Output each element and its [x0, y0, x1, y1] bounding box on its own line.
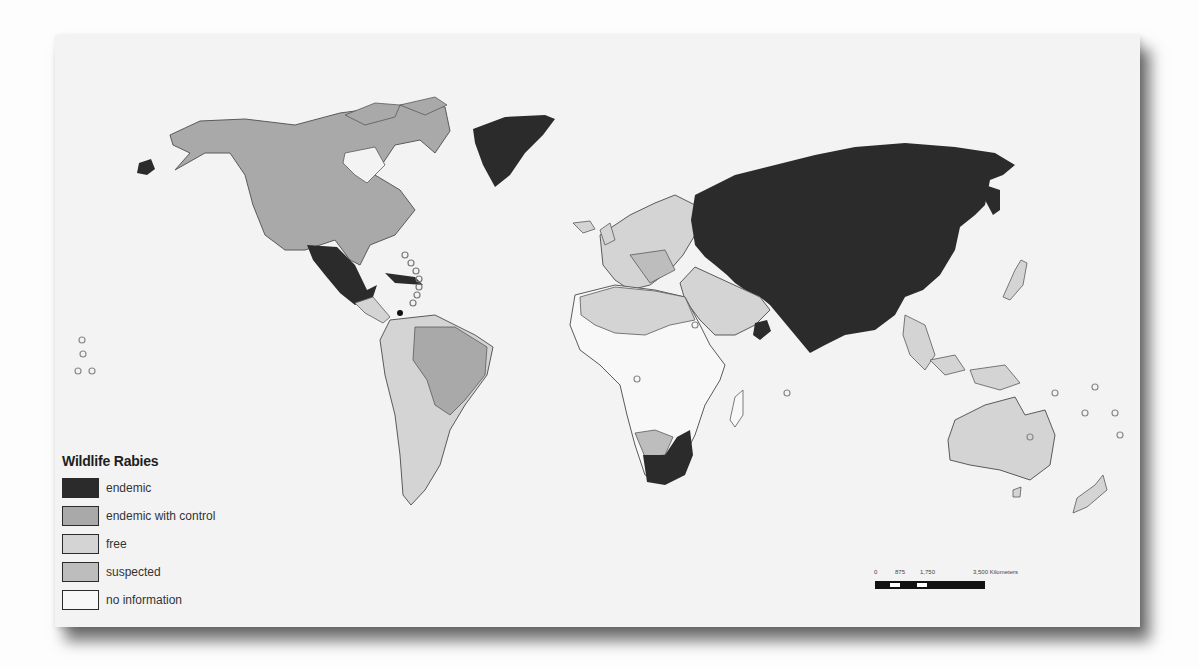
- legend-item-endemic-with-control: endemic with control: [62, 502, 302, 530]
- scale-tick: 875: [895, 569, 905, 575]
- scale-tick: 0: [874, 569, 877, 575]
- region-cuba: [385, 273, 423, 285]
- legend-swatch: [62, 534, 99, 554]
- region-new-zealand: [1073, 475, 1107, 513]
- scale-bar: 0 875 1,750 3,500 Kilometers: [875, 569, 1015, 599]
- region-north-america: [170, 103, 450, 265]
- scale-ticks: 0 875 1,750 3,500 Kilometers: [875, 569, 1015, 579]
- scale-tick: 1,750: [920, 569, 935, 575]
- map-legend: Wildlife Rabies endemic endemic with con…: [62, 453, 302, 614]
- legend-item-suspected: suspected: [62, 558, 302, 586]
- legend-item-no-information: no information: [62, 586, 302, 614]
- scale-bar-graphic: [875, 581, 985, 589]
- legend-label: endemic: [106, 481, 151, 495]
- scale-tick: 3,500 Kilometers: [973, 569, 1018, 575]
- region-greenland: [473, 115, 555, 187]
- legend-label: no information: [106, 593, 182, 607]
- legend-label: suspected: [106, 565, 161, 579]
- region-japan: [1003, 260, 1027, 300]
- map-figure: Wildlife Rabies endemic endemic with con…: [55, 35, 1140, 627]
- legend-swatch: [62, 562, 99, 582]
- legend-swatch: [62, 506, 99, 526]
- legend-label: free: [106, 537, 127, 551]
- region-oman: [753, 320, 771, 340]
- legend-label: endemic with control: [106, 509, 215, 523]
- region-australia: [948, 397, 1055, 480]
- legend-item-endemic: endemic: [62, 474, 302, 502]
- region-mexico: [307, 245, 377, 305]
- legend-swatch: [62, 590, 99, 610]
- region-bering: [137, 159, 155, 175]
- legend-swatch: [62, 478, 99, 498]
- legend-item-free: free: [62, 530, 302, 558]
- legend-title: Wildlife Rabies: [62, 453, 302, 469]
